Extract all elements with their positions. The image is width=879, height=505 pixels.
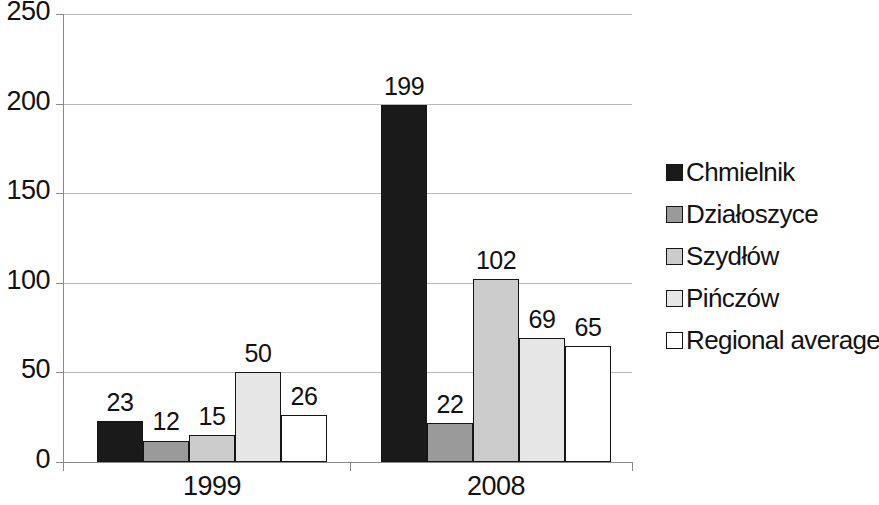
y-tick-label: 250	[0, 0, 50, 27]
legend-swatch-icon	[666, 164, 683, 181]
legend-label: Pińczów	[686, 283, 779, 314]
bar-value-label: 102	[459, 246, 533, 275]
legend-item[interactable]: Pińczów	[666, 277, 879, 319]
legend-label: Działoszyce	[686, 199, 818, 230]
x-axis-group-label: 2008	[416, 471, 576, 502]
bar[interactable]	[281, 415, 327, 462]
bar-chart-figure: 050100150200250 2312155026199221026965 1…	[0, 0, 879, 505]
x-axis-group-label: 1999	[132, 471, 292, 502]
bar[interactable]	[565, 346, 611, 462]
legend-swatch-icon	[666, 290, 683, 307]
bar[interactable]	[519, 338, 565, 462]
legend-label: Szydłów	[686, 241, 779, 272]
legend-item[interactable]: Szydłów	[666, 235, 879, 277]
legend-item[interactable]: Działoszyce	[666, 193, 879, 235]
legend-item[interactable]: Regional average	[666, 319, 879, 361]
bar-value-label: 22	[413, 390, 487, 419]
x-axis-tick	[63, 462, 64, 471]
legend-swatch-icon	[666, 206, 683, 223]
bar-value-label: 199	[367, 72, 441, 101]
legend-swatch-icon	[666, 332, 683, 349]
legend-label: Chmielnik	[686, 157, 795, 188]
bar[interactable]	[427, 423, 473, 462]
bar-value-label: 50	[221, 339, 295, 368]
gridline	[63, 462, 632, 463]
bar[interactable]	[189, 435, 235, 462]
y-tick-label: 150	[0, 175, 50, 206]
legend-swatch-icon	[666, 248, 683, 265]
bar[interactable]	[143, 441, 189, 463]
bar-value-label: 26	[267, 382, 341, 411]
bar-value-label: 15	[175, 402, 249, 431]
legend-label: Regional average	[686, 325, 879, 356]
bar-value-label: 65	[551, 313, 625, 342]
y-tick-label: 100	[0, 265, 50, 296]
chart-legend: ChmielnikDziałoszyceSzydłówPińczówRegion…	[666, 151, 879, 361]
y-tick-label: 0	[0, 444, 50, 475]
x-axis-tick	[632, 462, 633, 471]
legend-item[interactable]: Chmielnik	[666, 151, 879, 193]
y-tick-label: 50	[0, 354, 50, 385]
y-tick-label: 200	[0, 86, 50, 117]
x-axis-tick	[350, 462, 351, 471]
